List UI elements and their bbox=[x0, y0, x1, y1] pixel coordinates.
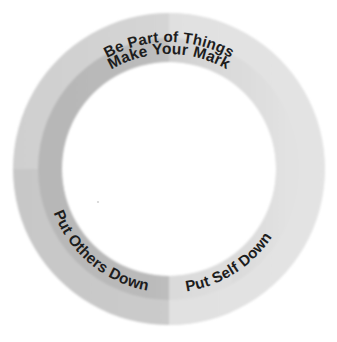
ring-diagram-canvas: Be Part of Things Make Your Mark Put Oth… bbox=[0, 0, 337, 342]
ring-diagram-figure: Be Part of Things Make Your Mark Put Oth… bbox=[0, 0, 337, 342]
scan-speck-artifact bbox=[97, 201, 99, 203]
